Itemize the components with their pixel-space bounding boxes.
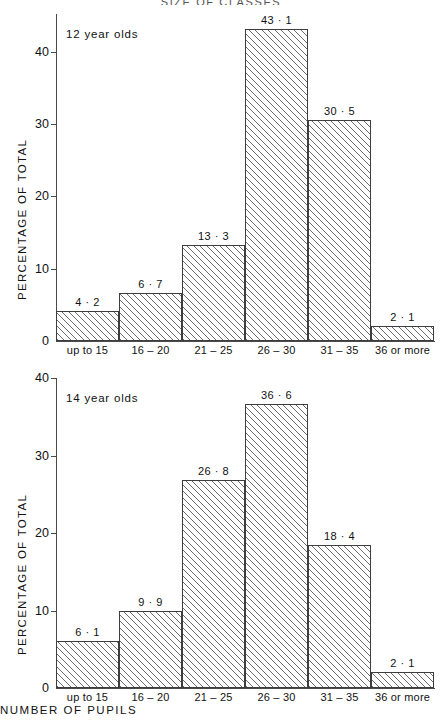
x-tick-label: 21 – 25 <box>194 691 232 703</box>
bar-value-label: 6 · 1 <box>75 626 100 638</box>
y-tick-label: 0 <box>42 681 56 695</box>
histogram-bar <box>308 120 371 341</box>
series-annotation: 14 year olds <box>66 392 138 404</box>
x-tick-label: 31 – 35 <box>320 344 358 356</box>
x-tick-label: 31 – 35 <box>320 691 358 703</box>
y-tick-mark <box>51 378 56 379</box>
histogram-bar <box>56 641 119 688</box>
bar-value-label: 6 · 7 <box>138 278 163 290</box>
y-tick-mark <box>51 52 56 53</box>
chart-panel-12-year-olds: 010203040PERCENTAGE OF TOTAL12 year olds… <box>0 0 442 370</box>
bar-value-label: 36 · 6 <box>261 389 292 401</box>
histogram-bar <box>245 29 308 341</box>
y-tick-mark <box>51 269 56 270</box>
bar-value-label: 13 · 3 <box>198 230 229 242</box>
chart-panel-14-year-olds: 010203040PERCENTAGE OF TOTAL14 year olds… <box>0 370 442 726</box>
y-tick-mark <box>51 196 56 197</box>
bar-value-label: 43 · 1 <box>261 14 292 26</box>
histogram-bar <box>182 245 245 341</box>
y-tick-label: 0 <box>42 334 56 348</box>
histogram-bar <box>245 404 308 688</box>
histogram-bar <box>119 293 182 341</box>
y-tick-mark <box>51 456 56 457</box>
histogram-bar <box>371 672 434 688</box>
bar-value-label: 18 · 4 <box>324 530 355 542</box>
bar-value-label: 2 · 1 <box>390 311 415 323</box>
y-axis-title: PERCENTAGE OF TOTAL <box>16 494 28 655</box>
x-tick-label: 16 – 20 <box>131 691 169 703</box>
x-axis-line <box>56 341 435 342</box>
histogram-bar <box>308 545 371 688</box>
x-tick-label: 26 – 30 <box>257 344 295 356</box>
x-tick-label: 36 or more <box>375 344 430 356</box>
histogram-bar <box>56 311 119 341</box>
bar-value-label: 2 · 1 <box>390 657 415 669</box>
y-tick-mark <box>51 611 56 612</box>
histogram-bar <box>182 480 245 688</box>
x-tick-label: 36 or more <box>375 691 430 703</box>
y-tick-mark <box>51 124 56 125</box>
x-tick-label: 26 – 30 <box>257 691 295 703</box>
bar-value-label: 9 · 9 <box>138 596 163 608</box>
histogram-bar <box>119 611 182 688</box>
bar-value-label: 30 · 5 <box>324 105 355 117</box>
y-axis-title: PERCENTAGE OF TOTAL <box>16 139 28 300</box>
x-tick-label: 21 – 25 <box>194 344 232 356</box>
histogram-bar <box>371 326 434 341</box>
bar-value-label: 26 · 8 <box>198 465 229 477</box>
series-annotation: 12 year olds <box>66 28 138 40</box>
bar-value-label: 4 · 2 <box>75 296 100 308</box>
x-tick-label: up to 15 <box>67 691 108 703</box>
x-axis-line <box>56 688 435 689</box>
x-tick-label: up to 15 <box>67 344 108 356</box>
y-tick-mark <box>51 533 56 534</box>
y-axis-line <box>56 14 57 342</box>
x-tick-label: 16 – 20 <box>131 344 169 356</box>
